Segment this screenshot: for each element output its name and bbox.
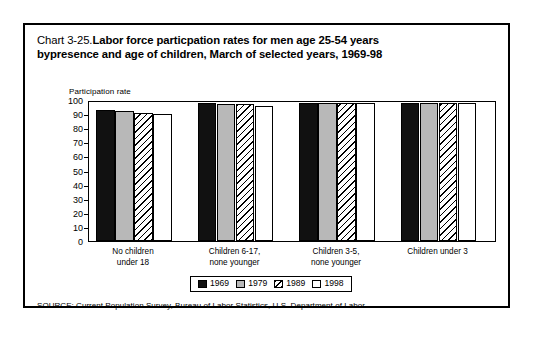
bar-1969-1 [96,110,115,241]
bar-1979-3 [318,103,337,241]
legend-swatch-icon [236,280,245,288]
bar-group [401,102,496,241]
bar-1989-4 [439,103,458,241]
x-axis-category-labels: No childrenunder 18Children 6-17,none yo… [88,247,499,273]
legend-label: 1998 [324,279,343,288]
bar-1998-3 [356,103,375,241]
y-tick-mark [84,228,88,229]
y-tick-label: 10 [73,223,83,232]
bar-group [198,102,293,241]
y-tick-label: 50 [73,167,83,176]
source-note: SOURCE: Current Population Survey, Burea… [37,301,365,310]
y-tick-mark [84,157,88,158]
y-tick-mark [84,186,88,187]
legend-item-1969: 1969 [198,279,229,288]
legend-label: 1979 [248,279,267,288]
y-tick-label: 60 [73,153,83,162]
legend-item-1979: 1979 [236,279,267,288]
legend-swatch-icon [274,280,283,288]
y-axis-tick-labels: 0102030405060708090100 [61,101,83,242]
figure-border-box: Chart 3-25.Labor force particpation rate… [23,23,510,308]
chart-title-line-2: bypresence and age of children, March of… [37,47,499,61]
y-tick-mark [84,143,88,144]
bar-1979-4 [420,103,439,241]
bar-1979-2 [217,104,236,241]
y-tick-mark [84,115,88,116]
y-tick-mark [84,214,88,215]
legend-label: 1969 [210,279,229,288]
bars-container [89,102,495,241]
bar-1989-1 [134,113,153,241]
bar-1998-4 [458,103,477,241]
bar-1989-3 [337,103,356,241]
bar-1969-2 [198,103,217,241]
chart-legend: 1969197919891998 [190,276,352,292]
legend-item-1989: 1989 [274,279,305,288]
chart-page: Chart 3-25.Labor force particpation rate… [0,0,535,347]
x-category-label: Children under 3 [378,247,498,258]
y-tick-label: 80 [73,125,83,134]
bar-1998-1 [153,114,172,241]
y-tick-label: 100 [68,97,83,106]
legend-swatch-icon [312,280,321,288]
plot-wrapper: 0102030405060708090100 [61,101,499,246]
legend-label: 1989 [286,279,305,288]
chart-title-line-1: Chart 3-25.Labor force particpation rate… [37,33,499,47]
bar-1969-3 [299,103,318,241]
y-tick-mark [84,172,88,173]
chart-title-text-1: Labor force particpation rates for men a… [92,34,379,46]
bar-group [96,102,191,241]
chart-title: Chart 3-25.Labor force particpation rate… [37,33,499,61]
y-tick-mark [84,200,88,201]
bar-1969-4 [401,103,420,241]
x-category-label-line: Children under 3 [378,247,498,258]
bar-1989-2 [236,104,255,241]
y-tick-label: 90 [73,111,83,120]
y-tick-label: 0 [78,238,83,247]
y-tick-label: 30 [73,195,83,204]
bar-group [299,102,394,241]
legend-item-1998: 1998 [312,279,343,288]
bar-1979-1 [115,111,134,241]
y-tick-mark [84,129,88,130]
x-category-label-line: none younger [276,258,396,269]
y-tick-label: 70 [73,139,83,148]
bar-1998-2 [255,106,274,241]
legend-swatch-icon [198,280,207,288]
y-tick-label: 20 [73,209,83,218]
plot-area [88,101,496,242]
y-tick-label: 40 [73,181,83,190]
chart-number: Chart 3-25. [37,34,92,46]
